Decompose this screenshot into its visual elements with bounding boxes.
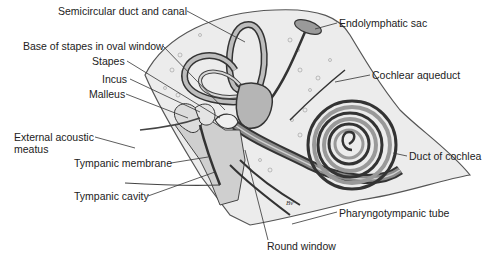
artist-signature: Bv (286, 199, 293, 207)
label-meatus: meatus (14, 143, 48, 155)
label-endolymphatic-sac: Endolymphatic sac (339, 17, 427, 29)
label-incus: Incus (102, 73, 127, 85)
label-external-acoustic: External acoustic (14, 131, 94, 143)
label-stapes: Stapes (92, 55, 125, 67)
tympanic-cavity-shape (175, 120, 245, 205)
label-round-window: Round window (267, 240, 336, 252)
label-cochlear-aqueduct: Cochlear aqueduct (372, 69, 460, 81)
label-tympanic-membrane: Tympanic membrane (74, 157, 172, 169)
label-pharyngotympanic-tube: Pharyngotympanic tube (339, 207, 449, 219)
ear-anatomy-illustration (0, 0, 485, 258)
label-tympanic-cavity: Tympanic cavity (74, 190, 149, 202)
label-semicircular-duct-and-canal: Semicircular duct and canal (58, 5, 187, 17)
label-base-of-stapes: Base of stapes in oval window (23, 40, 164, 52)
label-malleus: Malleus (89, 88, 125, 100)
label-duct-of-cochlea: Duct of cochlea (409, 150, 481, 162)
